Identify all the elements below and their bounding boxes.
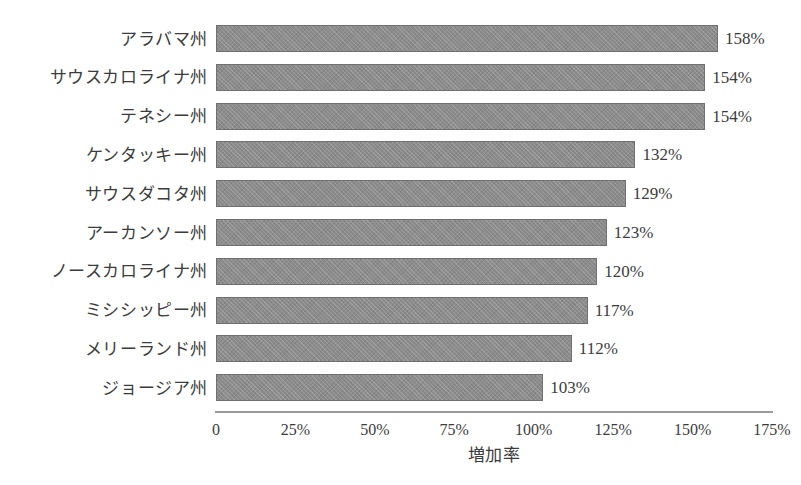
bar-value-label: 158% xyxy=(725,30,765,47)
bar xyxy=(216,141,635,168)
bar-value-label: 123% xyxy=(614,224,654,241)
bar-and-value: 103% xyxy=(216,374,590,401)
bar-value-label: 154% xyxy=(712,108,752,125)
x-tick-label: 125% xyxy=(594,419,631,441)
bar-value-label: 154% xyxy=(712,69,752,86)
bar-chart: アラバマ州158%サウスカロライナ州154%テネシー州154%ケンタッキー州13… xyxy=(0,0,801,485)
x-axis-title: 増加率 xyxy=(215,447,773,464)
bar-value-label: 132% xyxy=(642,146,682,163)
bar-and-value: 154% xyxy=(216,64,752,91)
bar-row: ケンタッキー州132% xyxy=(0,136,801,174)
bar-value-label: 129% xyxy=(633,185,673,202)
bar-category-label: テネシー州 xyxy=(0,108,208,125)
bar-category-label: ミシシッピー州 xyxy=(0,302,208,319)
bar-row: サウスダコタ州129% xyxy=(0,175,801,213)
bar-and-value: 154% xyxy=(216,103,752,130)
bar-category-label: ケンタッキー州 xyxy=(0,147,208,164)
bar-row: ノースカロライナ州120% xyxy=(0,253,801,291)
bar-value-label: 103% xyxy=(550,379,590,396)
x-tick-label: 75% xyxy=(440,419,469,441)
bar-and-value: 132% xyxy=(216,141,682,168)
bar xyxy=(216,103,705,130)
x-tick-label: 50% xyxy=(360,419,389,441)
bar-and-value: 123% xyxy=(216,219,653,246)
bar-category-label: アラバマ州 xyxy=(0,31,208,48)
x-tick-label: 0 xyxy=(212,419,220,441)
bar-row: ジョージア州103% xyxy=(0,369,801,407)
bar xyxy=(216,64,705,91)
bar-row: メリーランド州112% xyxy=(0,330,801,368)
bar-category-label: サウスカロライナ州 xyxy=(0,69,208,86)
bar xyxy=(216,374,543,401)
bar-row: アラバマ州158% xyxy=(0,20,801,58)
bar-value-label: 120% xyxy=(604,263,644,280)
x-axis-line xyxy=(215,411,773,413)
bar-and-value: 117% xyxy=(216,297,634,324)
x-tick-label: 100% xyxy=(515,419,552,441)
bar-category-label: サウスダコタ州 xyxy=(0,186,208,203)
bar xyxy=(216,258,597,285)
x-tick-label: 150% xyxy=(674,419,711,441)
bar-value-label: 117% xyxy=(595,302,634,319)
bar xyxy=(216,180,626,207)
bar-category-label: ノースカロライナ州 xyxy=(0,263,208,280)
bar-category-label: メリーランド州 xyxy=(0,341,208,358)
bar-and-value: 120% xyxy=(216,258,644,285)
bar xyxy=(216,219,607,246)
bar xyxy=(216,25,718,52)
bar-row: アーカンソー州123% xyxy=(0,214,801,252)
bar-category-label: アーカンソー州 xyxy=(0,225,208,242)
bar-row: テネシー州154% xyxy=(0,98,801,136)
x-axis-tick-labels: 025%50%75%100%125%150%175% xyxy=(0,419,801,441)
bar-row: ミシシッピー州117% xyxy=(0,292,801,330)
bar xyxy=(216,297,588,324)
bar-and-value: 158% xyxy=(216,25,765,52)
bar-category-label: ジョージア州 xyxy=(0,380,208,397)
bar xyxy=(216,335,572,362)
bar-row: サウスカロライナ州154% xyxy=(0,59,801,97)
bar-and-value: 129% xyxy=(216,180,673,207)
bar-and-value: 112% xyxy=(216,335,618,362)
x-tick-label: 175% xyxy=(753,419,790,441)
bar-value-label: 112% xyxy=(579,340,618,357)
x-tick-label: 25% xyxy=(281,419,310,441)
